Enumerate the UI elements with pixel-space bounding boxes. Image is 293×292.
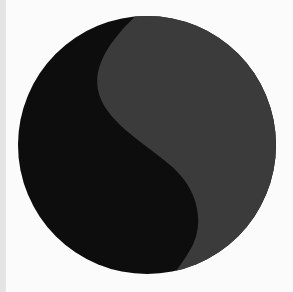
split-circle-graphic [0, 0, 293, 292]
